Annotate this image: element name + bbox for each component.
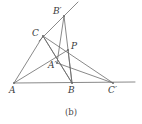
segment-side-A-to-C [14,36,43,83]
vertex-label-C: C [32,29,39,38]
vertex-label-P: P [71,42,77,51]
vertex-label-Cp: C′ [108,86,117,95]
geometry-figure: ABCPA′B′C′ (b) [0,0,142,124]
vertex-dot-P [67,49,69,51]
segment-cevian-A-through-Aprime-to-P [14,50,68,83]
vertex-dot-C [42,35,44,37]
vertex-dot-Cp [112,82,114,84]
figure-caption: (b) [0,108,142,117]
vertex-label-Ap: A′ [48,61,57,70]
vertex-label-B: B [68,86,75,95]
segment-segment-Bprime-to-Aprime [57,16,64,63]
segment-base-line-A-to-right-end [14,82,135,83]
vertex-dot-A [13,82,15,84]
vertex-label-Bp: B′ [53,7,62,16]
vertex-dot-Bp [63,15,65,17]
vertex-label-A: A [9,86,16,95]
geometry-diagram [0,0,142,124]
vertex-dot-B [71,82,73,84]
